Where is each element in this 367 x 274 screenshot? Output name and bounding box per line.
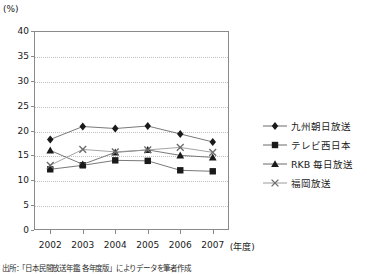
x-axis-tick-mark xyxy=(115,230,116,234)
chart-container: (%) 0510152025303540 2002200320042005200… xyxy=(0,0,367,274)
y-axis-tick-label: 5 xyxy=(3,200,29,210)
data-point-marker xyxy=(209,138,216,146)
y-axis-tick-label: 25 xyxy=(3,101,29,111)
data-point-marker xyxy=(47,135,54,143)
data-point-marker xyxy=(79,123,86,131)
triangle-marker-icon xyxy=(262,157,288,171)
y-axis-tick-label: 15 xyxy=(3,150,29,160)
series-line xyxy=(50,147,213,165)
legend-item[interactable]: テレビ西日本 xyxy=(262,136,366,153)
y-axis-tick-label: 10 xyxy=(3,175,29,185)
series-line xyxy=(50,160,213,171)
y-axis-tick-label: 40 xyxy=(3,26,29,36)
y-axis-tick-mark xyxy=(31,230,34,231)
legend-item-label: 福岡放送 xyxy=(291,176,331,190)
cross-marker-icon xyxy=(262,176,288,190)
data-point-marker xyxy=(144,122,151,130)
square-marker-icon xyxy=(262,138,288,152)
legend-item[interactable]: 九州朝日放送 xyxy=(262,117,366,134)
y-axis-tick-label: 35 xyxy=(3,51,29,61)
legend-item[interactable]: 福岡放送 xyxy=(262,174,366,191)
series-line xyxy=(50,150,213,164)
series-1 xyxy=(47,122,216,146)
x-axis-tick-label: 2003 xyxy=(71,240,94,250)
legend: 九州朝日放送テレビ西日本RKB 毎日放送福岡放送 xyxy=(262,117,366,193)
data-point-marker xyxy=(112,125,119,133)
data-point-marker xyxy=(177,130,184,138)
x-axis-tick-label: 2005 xyxy=(136,240,159,250)
x-axis-tick-mark xyxy=(148,230,149,234)
x-axis-tick-mark xyxy=(213,230,214,234)
diamond-marker-icon xyxy=(262,119,288,133)
y-axis-tick-label: 0 xyxy=(3,225,29,235)
legend-item-label: 九州朝日放送 xyxy=(291,119,350,133)
x-axis-tick-mark xyxy=(180,230,181,234)
legend-item-label: RKB 毎日放送 xyxy=(291,157,353,171)
y-axis-unit-label: (%) xyxy=(3,4,19,14)
x-axis-tick-label: 2006 xyxy=(169,240,192,250)
x-axis-tick-label: 2004 xyxy=(104,240,127,250)
series-layer xyxy=(34,31,229,230)
data-point-marker xyxy=(210,168,216,174)
legend-item[interactable]: RKB 毎日放送 xyxy=(262,155,366,172)
x-axis-tick-label: 2007 xyxy=(201,240,224,250)
source-note: 出所：「日本民間放送年鑑 各年度版」によりデータを筆者作成 xyxy=(2,262,191,273)
y-axis-tick-label: 20 xyxy=(3,126,29,136)
x-axis-tick-mark xyxy=(50,230,51,234)
x-axis-tick-label: 2002 xyxy=(39,240,62,250)
data-point-marker xyxy=(145,158,151,164)
x-axis-unit-label: (年度) xyxy=(230,240,255,253)
series-line xyxy=(50,126,213,142)
y-axis-tick-label: 30 xyxy=(3,76,29,86)
data-point-marker xyxy=(177,167,183,173)
data-point-marker xyxy=(112,157,118,163)
legend-item-label: テレビ西日本 xyxy=(291,138,350,152)
data-point-marker xyxy=(46,147,54,154)
x-axis-tick-mark xyxy=(83,230,84,234)
